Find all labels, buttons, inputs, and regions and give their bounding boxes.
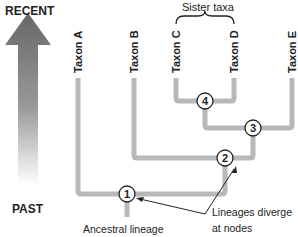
ancestral-lineage-label: Ancestral lineage — [83, 223, 164, 235]
node-3: 3 — [245, 120, 261, 136]
taxon-c-label: Taxon C — [170, 30, 182, 73]
svg-text:1: 1 — [124, 188, 130, 200]
arrowhead-icon — [232, 166, 237, 173]
arrowhead-icon — [136, 197, 144, 202]
sister-taxa-label: Sister taxa — [182, 1, 235, 13]
node-4: 4 — [197, 93, 213, 109]
node-2: 2 — [217, 150, 233, 166]
node-1: 1 — [119, 186, 135, 202]
diverge-label-line2: at nodes — [212, 222, 252, 234]
svg-text:3: 3 — [250, 122, 256, 134]
recent-label: RECENT — [5, 4, 55, 18]
svg-text:2: 2 — [222, 152, 228, 164]
taxon-e-label: Taxon E — [286, 31, 298, 73]
taxon-b-label: Taxon B — [128, 30, 140, 73]
taxon-d-label: Taxon D — [228, 30, 240, 73]
svg-text:4: 4 — [202, 95, 209, 107]
taxon-a-label: Taxon A — [72, 31, 84, 73]
past-label: PAST — [12, 202, 44, 216]
tree-branches — [78, 78, 292, 217]
time-arrow-icon — [5, 13, 51, 185]
phylogenetic-tree: RECENT PAST Taxon A Taxon B Taxon C Taxo… — [0, 0, 298, 237]
diverge-label-line1: Lineages diverge — [212, 206, 292, 218]
